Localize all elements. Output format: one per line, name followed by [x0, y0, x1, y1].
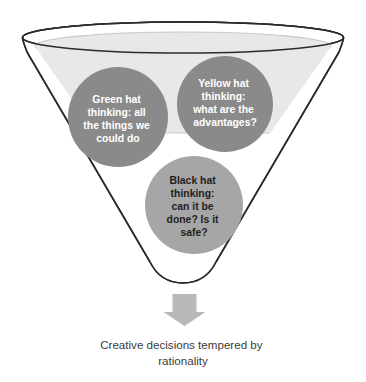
diagram-canvas: Green hat thinking: all the things we co…	[0, 0, 366, 382]
funnel-diagram: Green hat thinking: all the things we co…	[0, 0, 366, 382]
down-arrow-icon	[164, 294, 206, 326]
caption-text: Creative decisions tempered by rationali…	[100, 338, 266, 367]
